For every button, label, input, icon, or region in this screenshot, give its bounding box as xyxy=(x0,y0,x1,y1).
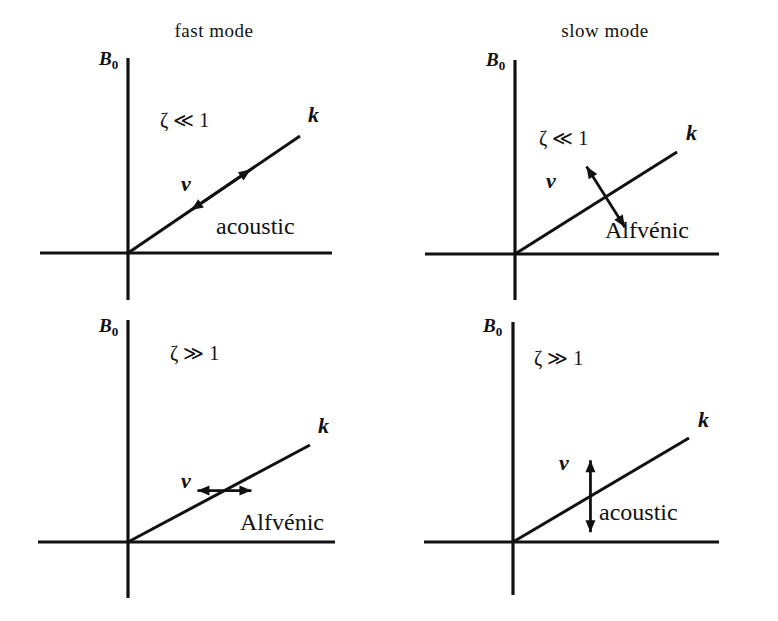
regime-condition-label: ζ ≪ 1 xyxy=(160,109,209,132)
wavevector-label: k xyxy=(698,407,709,432)
velocity-arrowhead-forward xyxy=(238,170,251,181)
regime-condition-label: ζ ≫ 1 xyxy=(534,347,583,370)
wave-type-label: Alfvénic xyxy=(605,217,689,243)
panel-canvas-slow-small-zeta: slow modeB0ζ ≪ 1kvAlfvénic xyxy=(389,0,778,311)
magnetic-field-axis-label: B0 xyxy=(482,315,502,339)
panel-fast-small-zeta: fast modeB0ζ ≪ 1kvacoustic xyxy=(0,0,389,310)
magnetic-field-axis-label-symbol: B xyxy=(485,49,499,70)
magnetic-field-axis-label-symbol: B xyxy=(98,48,112,69)
wave-type-label: Alfvénic xyxy=(240,509,324,535)
velocity-label: v xyxy=(559,450,569,475)
wave-type-label: acoustic xyxy=(216,213,295,239)
velocity-label: v xyxy=(546,168,556,193)
velocity-arrowhead-backward xyxy=(585,520,595,532)
wavevector-label: k xyxy=(308,102,319,127)
velocity-label: v xyxy=(181,171,191,196)
magnetic-field-axis-label-subscript: 0 xyxy=(112,57,119,72)
magnetic-field-axis-label-symbol: B xyxy=(482,315,496,336)
regime-condition-label: ζ ≫ 1 xyxy=(170,342,219,365)
magnetic-field-axis-label: B0 xyxy=(98,315,118,339)
wavevector-label: k xyxy=(318,413,329,438)
panel-canvas-fast-small-zeta: fast modeB0ζ ≪ 1kvacoustic xyxy=(0,0,389,311)
wavevector-line xyxy=(513,438,689,542)
panel-fast-large-zeta: B0ζ ≫ 1kvAlfvénic xyxy=(0,310,389,620)
panel-canvas-slow-large-zeta: B0ζ ≫ 1kvacoustic xyxy=(389,310,778,621)
velocity-arrowhead-backward xyxy=(191,199,204,210)
mhd-mode-polarization-figure: fast modeB0ζ ≪ 1kvacousticslow modeB0ζ ≪… xyxy=(0,0,778,621)
panel-canvas-fast-large-zeta: B0ζ ≫ 1kvAlfvénic xyxy=(0,310,389,621)
mode-title: slow mode xyxy=(561,20,648,41)
magnetic-field-axis-label: B0 xyxy=(485,49,505,73)
magnetic-field-axis-label-symbol: B xyxy=(98,315,112,336)
magnetic-field-axis-label-subscript: 0 xyxy=(496,324,503,339)
velocity-arrowhead-backward xyxy=(197,486,209,496)
magnetic-field-axis-label-subscript: 0 xyxy=(112,324,119,339)
regime-condition-label: ζ ≪ 1 xyxy=(539,127,588,150)
mode-title: fast mode xyxy=(175,20,254,41)
wave-type-label: acoustic xyxy=(599,499,678,525)
velocity-label: v xyxy=(181,468,191,493)
magnetic-field-axis-label-subscript: 0 xyxy=(499,58,506,73)
panel-slow-small-zeta: slow modeB0ζ ≪ 1kvAlfvénic xyxy=(389,0,778,310)
velocity-arrowhead-forward xyxy=(585,460,595,472)
magnetic-field-axis-label: B0 xyxy=(98,48,118,72)
velocity-arrowhead-forward xyxy=(239,486,251,496)
panel-slow-large-zeta: B0ζ ≫ 1kvacoustic xyxy=(389,310,778,620)
wavevector-label: k xyxy=(686,120,697,145)
